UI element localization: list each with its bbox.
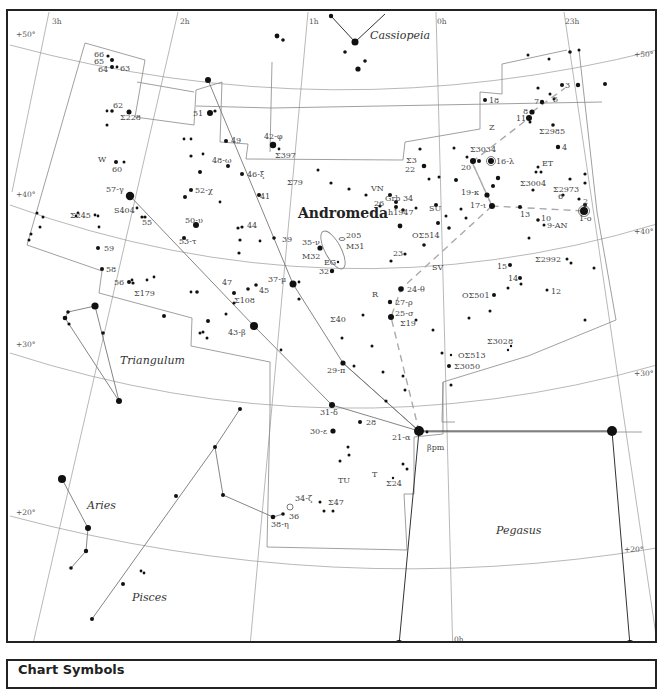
star-icon[interactable] (329, 181, 332, 184)
star-icon[interactable] (190, 291, 193, 294)
star-icon[interactable] (543, 224, 546, 227)
star-icon[interactable] (445, 215, 448, 218)
star-icon[interactable] (496, 176, 500, 180)
star-icon[interactable] (540, 171, 543, 174)
star-icon[interactable] (568, 50, 572, 54)
star-icon[interactable] (535, 171, 538, 174)
star-icon[interactable] (603, 82, 607, 86)
star-icon[interactable] (520, 283, 523, 286)
star-icon[interactable] (454, 178, 458, 182)
star-icon[interactable] (240, 172, 244, 176)
star-icon[interactable] (317, 169, 320, 172)
star-icon[interactable] (100, 267, 104, 271)
star-icon[interactable] (450, 384, 453, 387)
star-icon[interactable] (85, 525, 91, 531)
star-icon[interactable] (453, 147, 456, 150)
star-icon[interactable] (69, 566, 73, 570)
star-icon[interactable] (339, 460, 342, 463)
star-icon[interactable] (131, 281, 134, 284)
star-icon[interactable] (106, 110, 109, 113)
star-icon[interactable] (275, 34, 280, 39)
star-icon[interactable] (340, 360, 345, 365)
star-icon[interactable] (384, 399, 387, 402)
star-icon[interactable] (206, 319, 210, 323)
star-icon[interactable] (66, 310, 70, 314)
star-icon[interactable] (330, 269, 334, 273)
star-icon[interactable] (426, 431, 429, 434)
star-icon[interactable] (406, 468, 409, 471)
star-icon[interactable] (447, 364, 451, 368)
star-icon[interactable] (394, 640, 404, 643)
star-icon[interactable] (531, 188, 534, 191)
star-icon[interactable] (162, 314, 166, 318)
star-icon[interactable] (570, 262, 573, 265)
star-icon[interactable] (330, 428, 335, 433)
star-icon[interactable] (219, 201, 222, 204)
star-icon[interactable] (246, 287, 250, 291)
star-icon[interactable] (536, 218, 540, 222)
star-icon[interactable] (36, 212, 39, 215)
star-icon[interactable] (528, 237, 531, 240)
star-icon[interactable] (63, 316, 68, 321)
star-icon[interactable] (489, 203, 495, 209)
star-icon[interactable] (290, 281, 297, 288)
star-icon[interactable] (540, 100, 544, 104)
star-icon[interactable] (566, 258, 569, 261)
star-icon[interactable] (190, 138, 193, 141)
star-icon[interactable] (280, 349, 283, 352)
star-icon[interactable] (123, 161, 126, 164)
star-icon[interactable] (414, 426, 424, 436)
star-icon[interactable] (483, 98, 487, 102)
star-icon[interactable] (364, 193, 367, 196)
star-icon[interactable] (441, 352, 444, 355)
star-icon[interactable] (183, 138, 186, 141)
star-icon[interactable] (488, 158, 494, 164)
star-icon[interactable] (146, 279, 149, 282)
star-icon[interactable] (583, 181, 586, 184)
star-icon[interactable] (398, 224, 403, 229)
star-icon[interactable] (362, 314, 365, 317)
star-icon[interactable] (422, 164, 427, 169)
star-icon[interactable] (576, 83, 580, 87)
star-icon[interactable] (489, 310, 492, 313)
star-icon[interactable] (343, 50, 347, 54)
star-icon[interactable] (371, 345, 374, 348)
star-icon[interactable] (183, 195, 187, 199)
star-icon[interactable] (402, 463, 405, 466)
star-icon[interactable] (577, 197, 580, 200)
star-icon[interactable] (106, 124, 109, 127)
star-icon[interactable] (189, 188, 193, 192)
star-icon[interactable] (436, 221, 440, 225)
star-icon[interactable] (388, 314, 394, 320)
star-icon[interactable] (358, 420, 362, 424)
star-icon[interactable] (58, 475, 66, 483)
star-icon[interactable] (382, 371, 385, 374)
star-icon[interactable] (28, 239, 31, 242)
star-icon[interactable] (353, 365, 356, 368)
star-icon[interactable] (578, 49, 581, 52)
star-icon[interactable] (402, 375, 405, 378)
star-icon[interactable] (389, 259, 392, 262)
star-icon[interactable] (347, 187, 350, 190)
star-icon[interactable] (198, 170, 202, 174)
star-icon[interactable] (593, 267, 596, 270)
star-icon[interactable] (329, 14, 333, 18)
star-icon[interactable] (625, 640, 635, 643)
star-icon[interactable] (418, 147, 421, 150)
star-icon[interactable] (507, 349, 509, 351)
star-icon[interactable] (298, 281, 301, 284)
star-icon[interactable] (549, 93, 552, 96)
star-icon[interactable] (398, 286, 404, 292)
star-icon[interactable] (297, 297, 300, 300)
star-icon[interactable] (546, 289, 549, 292)
star-icon[interactable] (352, 39, 359, 46)
star-icon[interactable] (232, 291, 236, 295)
star-icon[interactable] (42, 216, 45, 219)
star-icon[interactable] (468, 317, 471, 320)
star-icon[interactable] (438, 176, 441, 179)
star-icon[interactable] (465, 217, 468, 220)
star-icon[interactable] (84, 549, 88, 553)
star-chart[interactable]: 6665646362Σ22851W6057-γS40455Σ245595856Σ… (8, 11, 657, 643)
star-icon[interactable] (127, 280, 131, 284)
star-icon[interactable] (238, 238, 241, 241)
